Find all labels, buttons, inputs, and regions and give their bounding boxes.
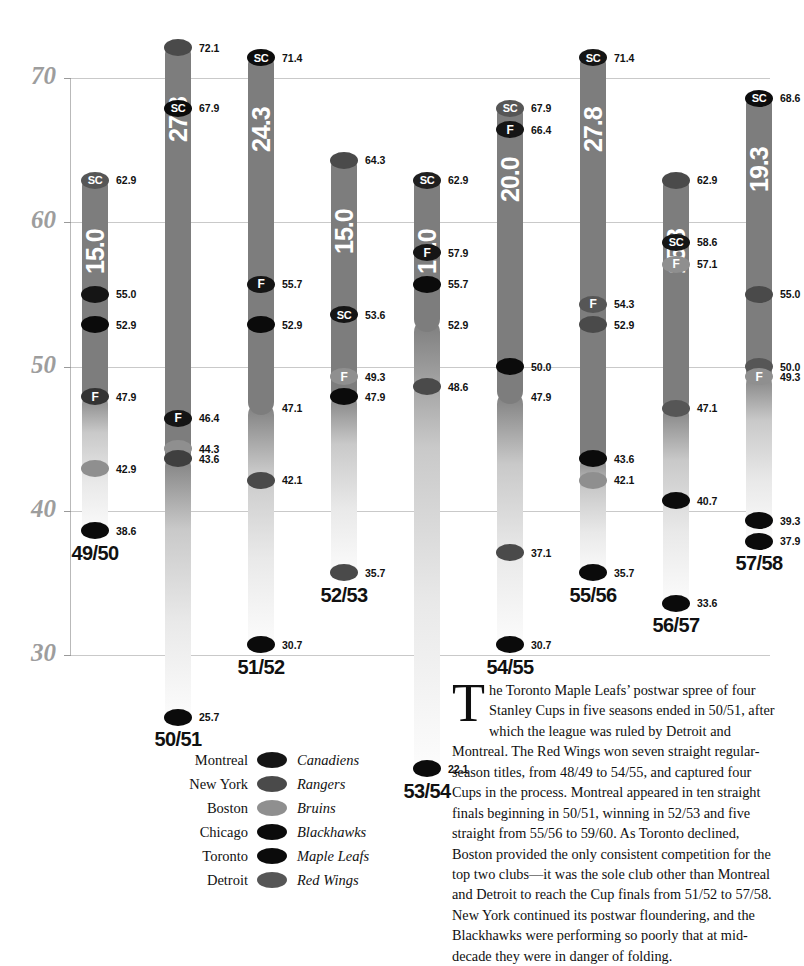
legend-city-label: New York <box>185 776 257 793</box>
legend-swatch-icon <box>257 824 287 840</box>
column-49-50[interactable]: 15.0SC62.955.052.9F47.942.938.649/50 <box>82 0 108 948</box>
marker-chicago-blackhawks[interactable] <box>247 636 275 653</box>
legend-item-chicago[interactable]: ChicagoBlackhawks <box>185 820 369 844</box>
value-label: 71.4 <box>282 52 302 64</box>
marker-montreal-canadiens[interactable]: SC <box>662 234 690 251</box>
value-label: 55.7 <box>282 278 302 290</box>
value-label: 47.9 <box>365 391 385 403</box>
value-label: 39.3 <box>780 515 800 527</box>
column-53-54[interactable]: 10.0SC62.9F57.955.752.948.622.153/54 <box>414 0 440 948</box>
value-label: 66.4 <box>531 124 551 136</box>
marker-boston-bruins[interactable] <box>247 472 275 489</box>
legend-city-label: Boston <box>185 800 257 817</box>
marker-montreal-canadiens[interactable]: F <box>164 410 192 427</box>
season-label[interactable]: 52/53 <box>314 584 374 607</box>
value-label: 25.7 <box>199 711 219 723</box>
season-label[interactable]: 56/57 <box>646 614 706 637</box>
marker-toronto-maple-leafs[interactable] <box>413 276 441 293</box>
drop-cap: T <box>452 680 489 724</box>
value-label: 49.3 <box>780 371 800 383</box>
column-percent-label: 15.8 <box>663 206 689 298</box>
legend-item-detroit[interactable]: DetroitRed Wings <box>185 868 369 892</box>
marker-montreal-canadiens[interactable]: SC <box>745 90 773 107</box>
season-label[interactable]: 49/50 <box>65 542 125 565</box>
marker-new-york-rangers[interactable] <box>330 564 358 581</box>
season-label[interactable]: 53/54 <box>397 780 457 803</box>
value-label: 55.0 <box>116 288 136 300</box>
legend-swatch-icon <box>257 752 287 768</box>
tick-mark-40 <box>64 511 71 512</box>
value-label: 42.1 <box>614 474 634 486</box>
legend-item-boston[interactable]: BostonBruins <box>185 796 369 820</box>
season-label[interactable]: 57/58 <box>729 552 789 575</box>
legend-team-label: Canadiens <box>287 752 359 769</box>
column-percent-label: 19.3 <box>746 124 772 216</box>
bar-fade-tail <box>165 453 191 725</box>
value-label: 55.7 <box>448 278 468 290</box>
value-label: 47.9 <box>116 391 136 403</box>
value-label: 72.1 <box>199 42 219 54</box>
marker-detroit-red-wings[interactable] <box>662 172 690 189</box>
value-label: 35.7 <box>365 567 385 579</box>
marker-chicago-blackhawks[interactable] <box>164 709 192 726</box>
value-label: 54.3 <box>614 298 634 310</box>
tick-mark-50 <box>64 367 71 368</box>
legend-team-label: Maple Leafs <box>287 848 369 865</box>
tick-mark-70 <box>64 78 71 79</box>
value-label: 49.3 <box>365 371 385 383</box>
marker-chicago-blackhawks[interactable] <box>413 760 441 777</box>
marker-chicago-blackhawks[interactable] <box>579 564 607 581</box>
marker-montreal-canadiens[interactable]: F <box>247 276 275 293</box>
value-label: 62.9 <box>697 174 717 186</box>
column-percent-label: 27.8 <box>165 74 191 166</box>
column-percent-label: 20.0 <box>497 134 523 226</box>
marker-detroit-red-wings[interactable]: SC <box>496 100 524 117</box>
marker-detroit-red-wings[interactable]: SC <box>413 172 441 189</box>
marker-boston-bruins[interactable] <box>579 472 607 489</box>
marker-montreal-canadiens[interactable]: SC <box>330 306 358 323</box>
legend-item-new-york[interactable]: New YorkRangers <box>185 772 369 796</box>
value-label: 35.7 <box>614 567 634 579</box>
value-label: 37.1 <box>531 547 551 559</box>
marker-montreal-canadiens[interactable]: F <box>413 244 441 261</box>
legend: MontrealCanadiensNew YorkRangersBostonBr… <box>185 748 369 892</box>
marker-toronto-maple-leafs[interactable] <box>496 358 524 375</box>
season-label[interactable]: 55/56 <box>563 584 623 607</box>
marker-chicago-blackhawks[interactable] <box>662 595 690 612</box>
value-label: 30.7 <box>531 639 551 651</box>
marker-new-york-rangers[interactable] <box>662 400 690 417</box>
marker-chicago-blackhawks[interactable] <box>496 636 524 653</box>
value-label: 71.4 <box>614 52 634 64</box>
marker-detroit-red-wings[interactable] <box>330 152 358 169</box>
legend-swatch-icon <box>257 776 287 792</box>
tick-mark-30 <box>64 655 71 656</box>
y-tick-label-70: 70 <box>14 62 56 90</box>
marker-boston-bruins[interactable]: F <box>330 368 358 385</box>
legend-team-label: Red Wings <box>287 872 359 889</box>
marker-toronto-maple-leafs[interactable] <box>745 533 773 550</box>
marker-boston-bruins[interactable]: F <box>745 368 773 385</box>
marker-toronto-maple-leafs[interactable]: SC <box>164 100 192 117</box>
value-label: 64.3 <box>365 154 385 166</box>
bar-fade-tail <box>497 391 523 653</box>
legend-team-label: Rangers <box>287 776 345 793</box>
value-label: 58.6 <box>697 236 717 248</box>
marker-montreal-canadiens[interactable] <box>81 286 109 303</box>
marker-new-york-rangers[interactable] <box>745 286 773 303</box>
legend-item-toronto[interactable]: TorontoMaple Leafs <box>185 844 369 868</box>
season-label[interactable]: 51/52 <box>231 656 291 679</box>
legend-item-montreal[interactable]: MontrealCanadiens <box>185 748 369 772</box>
marker-boston-bruins[interactable]: F <box>662 256 690 273</box>
legend-swatch-icon <box>257 800 287 816</box>
value-label: 52.9 <box>614 319 634 331</box>
marker-detroit-red-wings[interactable]: SC <box>81 172 109 189</box>
season-label[interactable]: 54/55 <box>480 656 540 679</box>
y-tick-label-50: 50 <box>14 351 56 379</box>
value-label: 43.6 <box>199 453 219 465</box>
marker-new-york-rangers[interactable] <box>496 544 524 561</box>
marker-detroit-red-wings[interactable]: F <box>579 296 607 313</box>
value-label: 53.6 <box>365 309 385 321</box>
legend-city-label: Toronto <box>185 848 257 865</box>
marker-chicago-blackhawks[interactable] <box>81 522 109 539</box>
value-label: 67.9 <box>531 102 551 114</box>
